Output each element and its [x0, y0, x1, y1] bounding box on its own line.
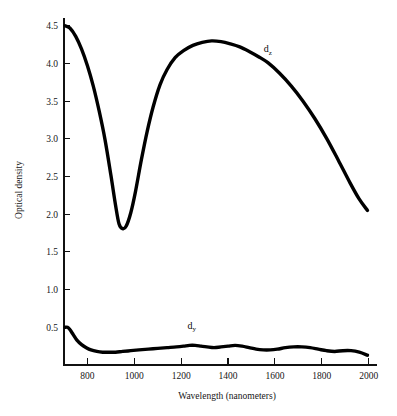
x-axis-title: Wavelength (nanometers)	[178, 391, 276, 402]
x-tick-labels: 800100012001400160018002000	[80, 371, 378, 381]
x-tick-label: 1600	[265, 371, 284, 381]
y-tick-label: 3.5	[46, 97, 58, 107]
axis-spine	[64, 18, 377, 365]
x-tick-label: 800	[80, 371, 95, 381]
series-label-d_z: dz	[264, 43, 272, 57]
y-tick-labels: 0.51.01.52.02.53.03.54.04.5	[46, 21, 58, 333]
x-tick-label: 1800	[312, 371, 331, 381]
x-tick-label: 2000	[359, 371, 378, 381]
y-tick-label: 3.0	[46, 134, 58, 144]
optical-density-plot: 800100012001400160018002000 0.51.01.52.0…	[0, 0, 397, 416]
y-tick-label: 1.0	[46, 285, 58, 295]
x-tick-label: 1200	[172, 371, 191, 381]
tick-marks	[64, 26, 369, 365]
y-tick-label: 4.0	[46, 59, 58, 69]
axes	[64, 18, 377, 365]
y-tick-label: 4.5	[46, 21, 58, 31]
series-label-subscript: y	[192, 325, 196, 333]
curve-d_y	[65, 327, 367, 355]
series-annotations: dzdy	[187, 43, 271, 333]
y-tick-label: 2.0	[46, 210, 58, 220]
chart-figure: 800100012001400160018002000 0.51.01.52.0…	[0, 0, 397, 416]
series-label-d_y: dy	[187, 320, 196, 334]
y-tick-label: 1.5	[46, 247, 58, 257]
curve-d_z	[65, 26, 367, 229]
series-label-subscript: z	[269, 49, 272, 57]
y-axis-title: Optical density	[14, 161, 24, 219]
x-tick-label: 1000	[125, 371, 144, 381]
data-curves	[65, 26, 367, 355]
y-tick-label: 2.5	[46, 172, 58, 182]
y-tick-label: 0.5	[46, 323, 58, 333]
x-tick-label: 1400	[219, 371, 238, 381]
